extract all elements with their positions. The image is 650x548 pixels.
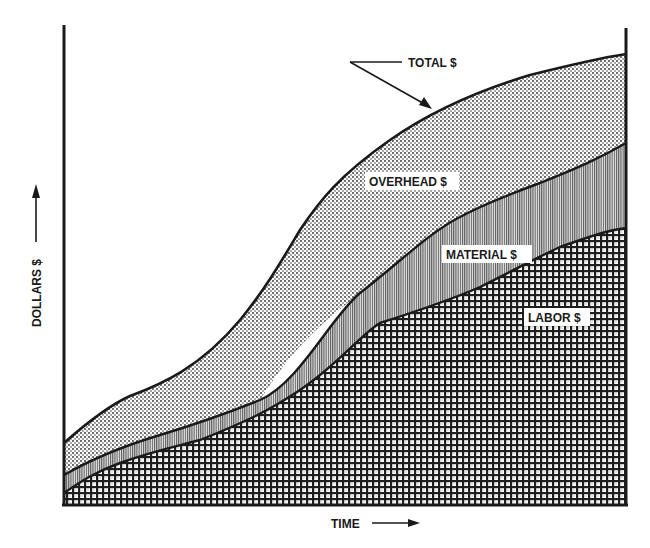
material-label: MATERIAL $ <box>446 248 517 262</box>
up-arrow-icon <box>32 184 40 198</box>
material-label-group: MATERIAL $ <box>442 245 532 263</box>
right-arrow-icon <box>408 519 420 527</box>
labor-label: LABOR $ <box>528 311 581 325</box>
x-axis-label: TIME <box>331 517 360 531</box>
total-label: TOTAL $ <box>408 56 457 70</box>
labor-label-group: LABOR $ <box>524 308 590 326</box>
total-callout: TOTAL $ <box>350 56 457 109</box>
y-axis-label: DOLLARS $ <box>30 259 44 327</box>
overhead-label-group: OVERHEAD $ <box>365 172 459 190</box>
stacked-area-chart: TOTAL $ OVERHEAD $ MATERIAL $ LABOR $ TI… <box>0 0 650 548</box>
y-axis-label-group: DOLLARS $ <box>30 184 44 327</box>
x-axis-label-group: TIME <box>331 517 420 531</box>
overhead-label: OVERHEAD $ <box>369 175 447 189</box>
arrowhead-icon <box>419 97 432 109</box>
